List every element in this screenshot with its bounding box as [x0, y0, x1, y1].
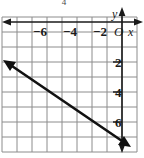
x-tick-label-minus2: −2 [93, 24, 107, 39]
y-tick-label-2: 2 [115, 55, 122, 70]
y-tick-label-4: 4 [115, 85, 122, 100]
clipped-header-fragment: 4 [62, 0, 67, 7]
x-tick-label-minus4: −4 [63, 24, 77, 39]
clipped-header-text: 4 [62, 0, 67, 7]
y-tick-labels: 2 4 6 [115, 55, 122, 130]
graph-figure: 4 [0, 0, 144, 158]
coordinate-plane-svg: 4 [0, 0, 144, 158]
origin-label: O [114, 24, 124, 39]
x-axis-label: x [127, 25, 134, 39]
y-axis-label: y [111, 7, 118, 21]
y-tick-label-6: 6 [115, 115, 122, 130]
x-tick-labels: −6 −4 −2 [33, 24, 107, 39]
x-tick-label-minus6: −6 [33, 24, 47, 39]
